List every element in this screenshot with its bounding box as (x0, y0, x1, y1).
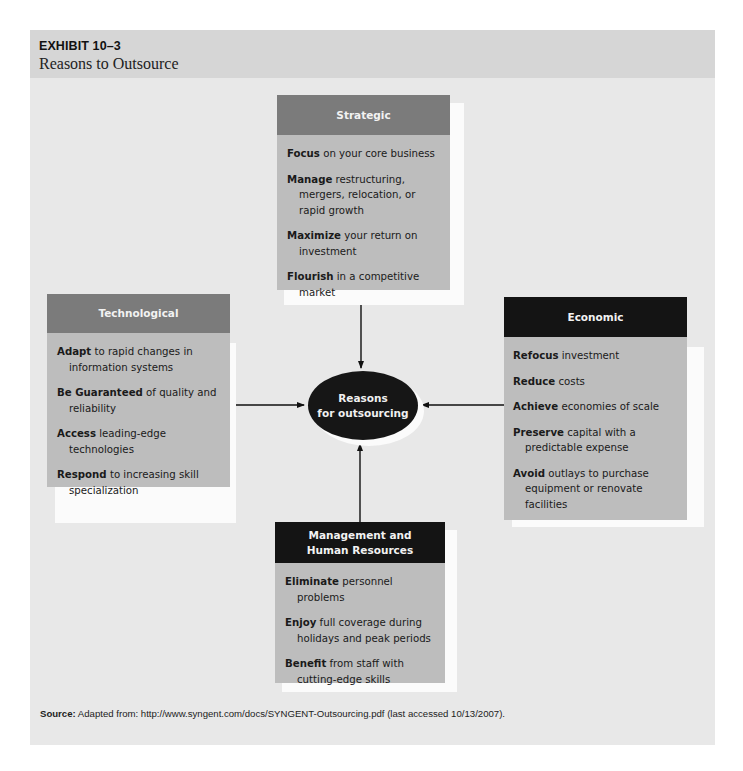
category-header-strategic: Strategic (277, 95, 450, 135)
list-item: Achieve economies of scale (513, 399, 683, 415)
category-title-line1: Management and (308, 528, 411, 543)
source-note: Source: Adapted from: http://www.syngent… (40, 708, 505, 719)
category-header-management: Management and Human Resources (275, 522, 445, 563)
hub-line2: for outsourcing (317, 406, 408, 421)
list-item: Maximize your return on investment (287, 228, 440, 259)
list-item: Adapt to rapid changes in information sy… (57, 344, 220, 375)
list-item: Be Guaranteed of quality and reliability (57, 385, 220, 416)
category-title: Economic (567, 310, 623, 325)
list-item: Eliminate personnel problems (285, 574, 435, 605)
list-item: Refocus investment (513, 348, 683, 364)
list-item: Benefit from staff with cutting-edge ski… (285, 656, 435, 687)
source-text: Adapted from: http://www.syngent.com/doc… (76, 708, 505, 719)
hub-line1: Reasons (338, 391, 387, 406)
category-title: Strategic (336, 108, 390, 123)
category-header-technological: Technological (47, 294, 230, 333)
list-item: Reduce costs (513, 374, 683, 390)
category-items: Adapt to rapid changes in information sy… (47, 344, 230, 508)
list-item: Preserve capital with a predictable expe… (513, 425, 683, 456)
hub-reasons-for-outsourcing: Reasons for outsourcing (308, 371, 418, 440)
list-item: Flourish in a competitive market (287, 269, 440, 300)
list-item: Access leading-edge technologies (57, 426, 220, 457)
list-item: Manage restructuring, mergers, relocatio… (287, 172, 440, 219)
category-items: Eliminate personnel problems Enjoy full … (275, 574, 445, 697)
list-item: Respond to increasing skill specializati… (57, 467, 220, 498)
category-items: Refocus investment Reduce costs Achieve … (504, 348, 687, 522)
list-item: Focus on your core business (287, 146, 440, 162)
category-header-economic: Economic (504, 297, 687, 337)
category-title: Technological (98, 306, 178, 321)
source-label: Source: (40, 708, 76, 719)
category-title-line2: Human Resources (307, 543, 413, 558)
list-item: Avoid outlays to purchase equipment or r… (513, 466, 683, 513)
list-item: Enjoy full coverage during holidays and … (285, 615, 435, 646)
category-items: Focus on your core business Manage restr… (277, 146, 450, 310)
